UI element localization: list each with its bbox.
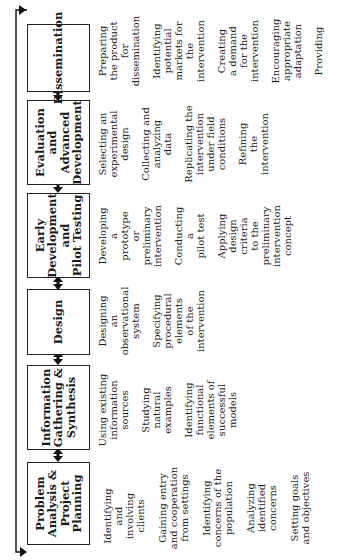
stage-box-information-gathering: Information Gathering & Synthesis xyxy=(27,365,90,450)
stage-title: Evaluation and Advanced Development xyxy=(34,100,84,185)
activity-item: Using existing information sources xyxy=(97,365,130,455)
activities-dissemination: Preparing the product for dissemination … xyxy=(97,6,334,96)
activities-design: Designing an observational system Specif… xyxy=(97,282,216,360)
intervention-research-diagram: Problem Analysis & Project Planning Info… xyxy=(0,0,358,560)
activity-item: Preparing the product for dissemination xyxy=(97,6,141,96)
activities-problem-analysis: Identifying and involving clients Gainin… xyxy=(102,458,322,558)
stage-box-problem-analysis: Problem Analysis & Project Planning xyxy=(27,462,90,545)
activities-information-gathering: Using existing information sources Study… xyxy=(97,365,248,455)
activity-item: Collecting and analyzing data xyxy=(140,98,173,190)
stage-box-early-development: Early Development and Pilot Testing xyxy=(27,193,90,278)
activity-item: Identifying concerns of the population xyxy=(201,458,234,558)
activity-item: Providing xyxy=(313,6,324,96)
activity-item: Replicating the intervention under field… xyxy=(183,98,227,190)
stage-title: Dissemination xyxy=(52,12,65,105)
stage-title: Early Development and Pilot Testing xyxy=(34,193,84,278)
stage-title: Problem Analysis & Project Planning xyxy=(34,470,84,538)
activity-item: Specifying procedural elements of the in… xyxy=(151,282,206,360)
activity-item: Refining the intervention xyxy=(237,98,270,190)
activity-item: Encouraging appropriate adaptation xyxy=(270,6,303,96)
stage-box-dissemination: Dissemination xyxy=(27,24,90,92)
activity-item: Identifying potential markets for the in… xyxy=(151,6,206,96)
feedback-loop-line xyxy=(16,5,27,557)
activities-evaluation: Selecting an experimental design Collect… xyxy=(97,98,280,190)
activity-item: Gaining entry and cooperation from setti… xyxy=(157,458,190,558)
activity-item: Analyzing identified concerns xyxy=(245,458,278,558)
activity-item: Selecting an experimental design xyxy=(97,98,130,190)
activity-item: Applying design criteria to the prelimin… xyxy=(216,195,293,277)
activity-item: Identifying functional elements of succe… xyxy=(183,365,238,455)
activity-item: Studying natural examples xyxy=(140,365,173,455)
activity-item: Conducting a pilot test xyxy=(173,195,206,277)
double-arrow-3 xyxy=(53,276,63,290)
activity-item: Developing a prototype or preliminary in… xyxy=(97,195,163,277)
activity-item: Designing an observational system xyxy=(97,282,141,360)
activities-early-development: Developing a prototype or preliminary in… xyxy=(97,195,303,277)
activity-item: Creating a demand for the intervention xyxy=(216,6,260,96)
activity-item: Setting goals and objectives xyxy=(289,458,311,558)
activity-item: Identifying and involving clients xyxy=(102,486,146,546)
double-arrow-1 xyxy=(53,448,63,462)
stage-box-design: Design xyxy=(27,289,90,355)
stage-title: Information Gathering & Synthesis xyxy=(40,368,78,447)
stage-box-evaluation: Evaluation and Advanced Development xyxy=(27,100,90,185)
stage-title: Design xyxy=(52,300,65,345)
